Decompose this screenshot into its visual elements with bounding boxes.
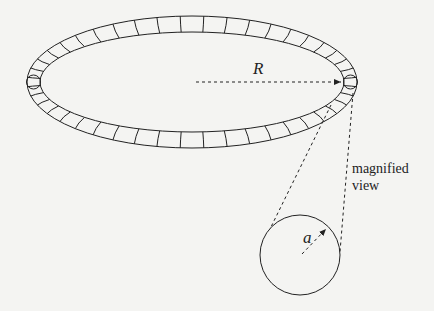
magnified-view-label: magnified view <box>352 160 409 194</box>
toroid-diagram: R a magnified view <box>0 0 434 311</box>
magnified-label-line1: magnified <box>352 160 409 177</box>
major-radius-label: R <box>253 59 263 79</box>
minor-radius-label: a <box>303 228 312 248</box>
torus-ring <box>27 16 358 148</box>
diagram-svg <box>0 0 434 311</box>
magnified-label-line2: view <box>352 177 409 194</box>
magnified-cross-section <box>260 215 340 295</box>
magnify-guide-left <box>270 105 331 229</box>
